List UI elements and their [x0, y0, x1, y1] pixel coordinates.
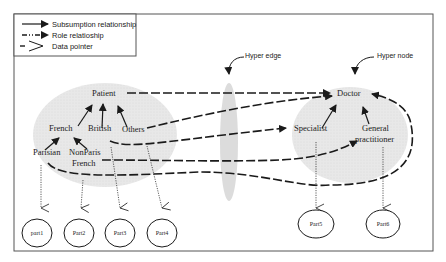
hyper-node-label: Hyper node — [377, 52, 413, 60]
node-doctor: Doctor — [337, 88, 361, 98]
legend-label-subsumption: Subsumption relationship — [52, 20, 136, 29]
node-nonparis: NonParis — [69, 147, 101, 157]
node-others: Others — [122, 124, 145, 134]
node-british: British — [88, 123, 112, 133]
left-hypernode-shape — [33, 83, 177, 187]
part2-label: Part2 — [73, 230, 86, 236]
part3-label: Part3 — [114, 230, 127, 236]
diagram-canvas: Subsumption relationship Role relatioshi… — [0, 0, 446, 262]
node-nonparis-french: French — [72, 158, 96, 168]
legend-label-role: Role relatioship — [52, 31, 104, 40]
hyper-edge-shape — [220, 83, 238, 201]
legend: Subsumption relationship Role relatioshi… — [14, 14, 136, 56]
part1-label: part1 — [31, 230, 43, 236]
part4-label: Part4 — [156, 230, 169, 236]
hyper-node-pointer-icon — [355, 57, 374, 74]
parts: part1 Part2 Part3 Part4 Part5 Part6 — [22, 210, 400, 247]
node-practitioner: practitioner — [355, 134, 394, 144]
hyper-edge-label: Hyper edge — [245, 52, 281, 60]
hyper-edge-pointer-icon — [229, 57, 244, 74]
part5-label: Part5 — [310, 221, 323, 227]
node-french: French — [49, 123, 73, 133]
node-parisian: Parisian — [33, 147, 61, 157]
node-specialist: Specialist — [294, 123, 328, 133]
part6-label: Part6 — [377, 221, 390, 227]
node-general: General — [362, 123, 390, 133]
node-patient: Patient — [92, 88, 116, 98]
legend-label-data-pointer: Data pointer — [52, 42, 93, 51]
